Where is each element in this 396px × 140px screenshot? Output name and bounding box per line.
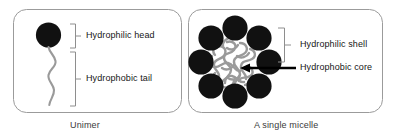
shell-bead xyxy=(198,25,223,50)
shell-bead xyxy=(246,25,271,50)
caption-micelle: A single micelle xyxy=(254,120,318,130)
hydrophobic-tail-bracket xyxy=(71,52,81,106)
shell-bead xyxy=(222,83,247,108)
shell-bead xyxy=(198,73,223,98)
label-hydrophilic-head: Hydrophilic head xyxy=(86,30,155,40)
unimer-panel-border xyxy=(14,10,182,113)
label-hydrophilic-shell: Hydrophilic shell xyxy=(300,39,367,49)
label-hydrophobic-tail: Hydrophobic tail xyxy=(86,73,152,83)
hydrophilic-head-circle xyxy=(36,22,61,47)
caption-unimer: Unimer xyxy=(70,120,100,130)
shell-bead xyxy=(256,49,281,74)
shell-bead xyxy=(246,73,271,98)
shell-bead xyxy=(222,15,247,40)
label-hydrophobic-core: Hydrophobic core xyxy=(300,62,372,72)
hydrophilic-head-bracket xyxy=(71,24,81,48)
hydrophobic-tail-chain xyxy=(48,47,55,105)
shell-bead xyxy=(188,49,213,74)
